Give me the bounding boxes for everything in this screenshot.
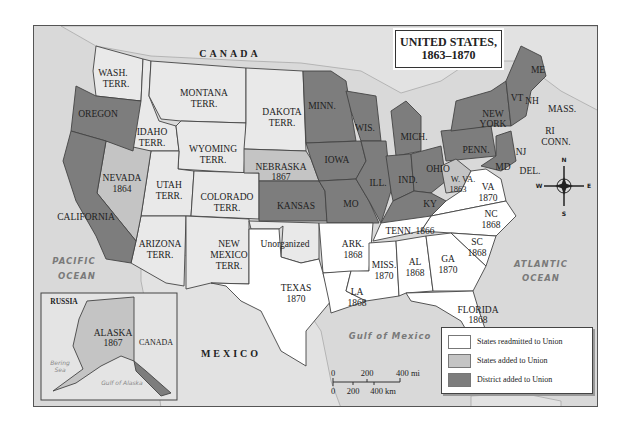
label-va-2: 1870 xyxy=(479,193,498,203)
label-pacific-2: OCEAN xyxy=(58,271,96,281)
compass-n: N xyxy=(561,156,566,163)
label-utah-2: TERR. xyxy=(156,191,183,201)
label-texas-1: TEXAS xyxy=(281,283,312,293)
map-title: UNITED STATES, 1863–1870 xyxy=(395,30,502,68)
label-nj: NJ xyxy=(516,147,527,157)
legend-swatch-added xyxy=(448,354,471,368)
scale-mi-0: 0 xyxy=(331,368,335,378)
label-unorganized: Unorganized xyxy=(261,239,310,249)
label-dakota-2: TERR. xyxy=(269,118,296,128)
label-nc-1: NC xyxy=(484,209,497,219)
legend-item-added: States added to Union xyxy=(448,351,586,370)
scale-km-0: 0 xyxy=(331,386,335,396)
label-la-2: 1868 xyxy=(348,298,367,308)
label-nevada-1: NEVADA xyxy=(103,173,142,183)
label-pacific-1: PACIFIC xyxy=(52,256,95,266)
compass-rose: N S E W xyxy=(536,156,591,217)
label-wis: WIS. xyxy=(355,123,375,133)
label-al-1: AL xyxy=(409,257,422,267)
label-california: CALIFORNIA xyxy=(57,212,115,222)
label-wyoming-2: TERR. xyxy=(200,155,227,165)
legend: States readmitted to Union States added … xyxy=(441,327,593,394)
map-title-line-2: 1863–1870 xyxy=(396,49,501,62)
label-mich: MICH. xyxy=(400,132,427,142)
label-oregon: OREGON xyxy=(78,109,118,119)
legend-swatch-district xyxy=(448,373,471,387)
label-wash-1: WASH. xyxy=(98,68,127,78)
label-colorado-1: COLORADO xyxy=(201,192,254,202)
label-ark-1: ARK. xyxy=(342,239,364,249)
label-ga-1: GA xyxy=(441,254,455,264)
legend-item-readmitted: States readmitted to Union xyxy=(448,332,586,351)
label-texas-2: 1870 xyxy=(287,294,306,304)
label-gulf-mexico: Gulf of Mexico xyxy=(349,331,432,341)
label-newyork-2: YORK xyxy=(480,119,507,129)
label-atlantic-2: OCEAN xyxy=(522,273,560,283)
label-nc-2: 1868 xyxy=(482,220,501,230)
scale-km-200: 200 xyxy=(347,386,360,396)
scale-bar: 0 200 400 mi 0 200 400 km xyxy=(331,368,421,396)
scale-km-400: 400 km xyxy=(370,386,396,396)
scale-mi-400: 400 mi xyxy=(396,368,420,378)
label-nh: NH xyxy=(525,96,539,106)
label-ill: ILL. xyxy=(369,178,386,188)
compass-w: W xyxy=(536,182,543,189)
label-florida-2: 1868 xyxy=(469,315,488,325)
label-canada-inset: CANADA xyxy=(139,338,173,347)
label-montana-2: TERR. xyxy=(191,99,218,109)
legend-item-district: District added to Union xyxy=(448,370,586,389)
label-newmexico-2: MEXICO xyxy=(210,250,248,260)
legend-label: States added to Union xyxy=(477,356,547,365)
compass-s: S xyxy=(562,210,566,217)
legend-label: States readmitted to Union xyxy=(477,337,563,346)
label-minn: MINN. xyxy=(308,101,336,111)
legend-label: District added to Union xyxy=(477,375,552,384)
label-idaho-2: TERR. xyxy=(139,138,166,148)
label-newmexico-3: TERR. xyxy=(216,261,243,271)
label-vt: VT xyxy=(511,93,524,103)
label-atlantic-1: ATLANTIC xyxy=(513,259,568,269)
label-me: ME xyxy=(531,65,545,75)
label-ind: IND. xyxy=(398,175,417,185)
label-la-1: LA xyxy=(351,287,364,297)
label-arizona-2: TERR. xyxy=(147,250,174,260)
label-sc-2: 1868 xyxy=(468,248,487,258)
label-wash-2: TERR. xyxy=(103,79,130,89)
label-mo: MO xyxy=(343,199,358,209)
label-miss-2: 1870 xyxy=(375,271,394,281)
label-nebraska-1: NEBRASKA xyxy=(255,162,306,172)
label-md: MD xyxy=(495,162,510,172)
label-florida-1: FLORIDA xyxy=(457,305,498,315)
label-newmexico-1: NEW xyxy=(218,239,240,249)
label-alaska-1: ALASKA xyxy=(94,328,133,338)
label-colorado-2: TERR. xyxy=(214,203,241,213)
label-canada: CANADA xyxy=(199,48,260,59)
label-iowa: IOWA xyxy=(325,155,350,165)
label-sc-1: SC xyxy=(471,237,483,247)
label-va-1: VA xyxy=(482,182,495,192)
label-idaho-1: IDAHO xyxy=(137,127,168,137)
label-wva-1: W. VA. xyxy=(451,174,476,184)
label-wva-2: 1863 xyxy=(450,184,467,194)
label-conn: CONN. xyxy=(541,137,570,147)
label-kansas: KANSAS xyxy=(277,201,315,211)
label-dakota-1: DAKOTA xyxy=(262,107,301,117)
label-alaska-2: 1867 xyxy=(104,338,123,348)
label-gulf-alaska: Gulf of Alaska xyxy=(101,379,143,386)
label-montana-1: MONTANA xyxy=(180,88,228,98)
compass-e: E xyxy=(587,182,591,189)
label-al-2: 1868 xyxy=(406,268,425,278)
label-bering-2: Sea xyxy=(54,366,66,373)
label-wyoming-1: WYOMING xyxy=(189,144,237,154)
legend-swatch-readmitted xyxy=(448,335,471,349)
label-miss-1: MISS. xyxy=(372,260,397,270)
label-ark-2: 1868 xyxy=(344,250,363,260)
label-ky: KY xyxy=(423,199,437,209)
label-arizona-1: ARIZONA xyxy=(139,239,182,249)
label-penn: PENN. xyxy=(462,145,489,155)
label-ohio: OHIO xyxy=(426,164,450,174)
label-nebraska-2: 1867 xyxy=(272,172,291,182)
label-russia: RUSSIA xyxy=(50,297,78,306)
label-mexico: MEXICO xyxy=(201,348,261,359)
label-mass: MASS. xyxy=(548,104,576,114)
